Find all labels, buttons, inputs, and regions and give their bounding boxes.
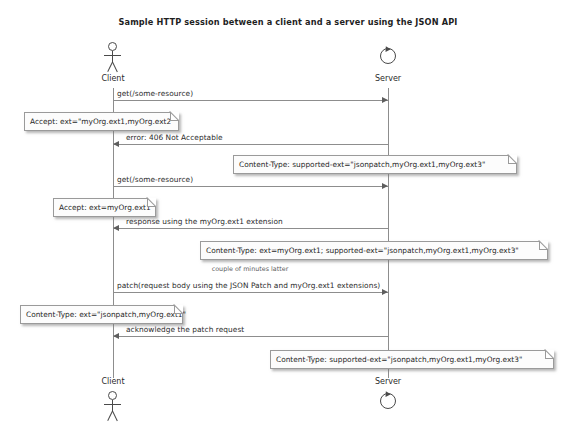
note-fold-corner-icon: [174, 305, 183, 314]
message-arrowhead-m4: [113, 225, 119, 231]
control-server-top[interactable]: [377, 46, 399, 68]
time-marker-label: couple of minutes latter: [212, 265, 289, 273]
message-label-m4: response using the myOrg.ext1 extension: [126, 217, 283, 226]
note-text: Content-Type: ext="jsonpatch,myOrg.ext1": [26, 310, 186, 319]
note-text: Accept: ext=myOrg.ext1: [59, 203, 151, 212]
participant-label-server-top: Server: [375, 74, 401, 83]
message-arrowhead-m5: [382, 289, 388, 295]
message-line-m4: [113, 228, 388, 229]
sequence-diagram-canvas: Sample HTTP session between a client and…: [0, 0, 576, 443]
message-arrowhead-m3: [382, 183, 388, 189]
actor-head-icon: [108, 391, 117, 400]
note-accept-ext-1[interactable]: Accept: ext="myOrg.ext1,myOrg.ext2": [24, 112, 179, 131]
message-arrowhead-m1: [382, 97, 388, 103]
actor-leg-right-icon: [112, 62, 118, 72]
note-accept-ext-2[interactable]: Accept: ext=myOrg.ext1: [53, 198, 156, 217]
actor-client-bottom[interactable]: [100, 391, 126, 421]
message-label-m3: get(/some-resource): [117, 175, 193, 184]
note-fold-corner-icon: [545, 350, 554, 359]
note-content-type-supported-ext-2[interactable]: Content-Type: supported-ext="jsonpatch,m…: [270, 350, 554, 369]
message-line-m6: [113, 336, 388, 337]
message-label-m5: patch(request body using the JSON Patch …: [117, 281, 380, 290]
note-fold-corner-icon: [508, 155, 517, 164]
message-line-m2: [113, 144, 388, 145]
actor-head-icon: [108, 42, 117, 51]
participant-label-client-top: Client: [101, 74, 124, 83]
control-server-bottom[interactable]: [377, 391, 399, 413]
message-line-m5: [113, 292, 388, 293]
note-fold-corner-icon: [539, 241, 548, 250]
note-text: Accept: ext="myOrg.ext1,myOrg.ext2": [30, 117, 175, 126]
page-title: Sample HTTP session between a client and…: [0, 17, 576, 27]
participant-label-server-bottom: Server: [375, 377, 401, 386]
note-content-type-jsonpatch[interactable]: Content-Type: ext="jsonpatch,myOrg.ext1": [20, 305, 183, 324]
message-label-m2: error: 406 Not Acceptable: [126, 133, 223, 142]
actor-client-top[interactable]: [100, 42, 126, 72]
note-fold-corner-icon: [147, 198, 156, 207]
lifeline-server: [388, 88, 389, 378]
note-text: Content-Type: ext=myOrg.ext1; supported-…: [206, 246, 519, 255]
note-fold-corner-icon: [170, 112, 179, 121]
participant-label-client-bottom: Client: [101, 377, 124, 386]
note-content-type-ext-supported-ext[interactable]: Content-Type: ext=myOrg.ext1; supported-…: [200, 241, 548, 260]
message-line-m1: [113, 100, 388, 101]
message-label-m6: acknowledge the patch request: [126, 325, 244, 334]
message-line-m3: [113, 186, 388, 187]
message-arrowhead-m2: [113, 141, 119, 147]
note-text: Content-Type: supported-ext="jsonpatch,m…: [276, 355, 522, 364]
message-arrowhead-m6: [113, 333, 119, 339]
note-text: Content-Type: supported-ext="jsonpatch,m…: [239, 160, 485, 169]
note-content-type-supported-ext-1[interactable]: Content-Type: supported-ext="jsonpatch,m…: [233, 155, 517, 174]
message-label-m1: get(/some-resource): [117, 89, 193, 98]
actor-leg-right-icon: [112, 411, 118, 421]
